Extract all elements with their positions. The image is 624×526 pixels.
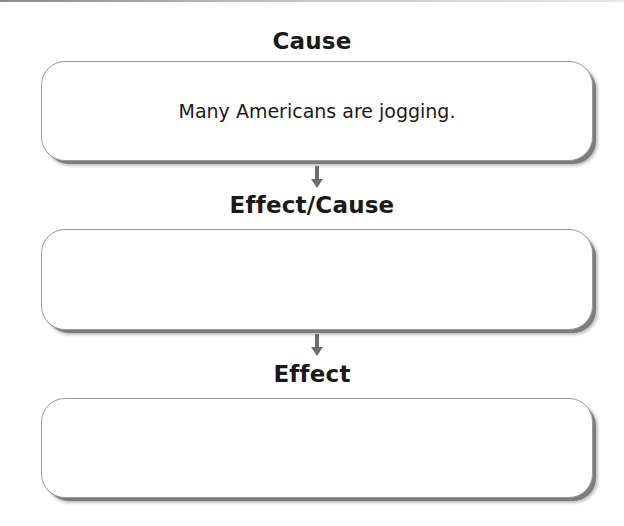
heading-effect: Effect [0, 361, 624, 387]
arrow-down-icon [311, 334, 323, 358]
cause-box-text: Many Americans are jogging. [179, 100, 456, 122]
effect-box[interactable] [41, 398, 593, 498]
top-border-rule [0, 0, 624, 2]
effect-cause-box[interactable] [41, 229, 593, 330]
heading-cause: Cause [0, 28, 624, 54]
arrow-down-icon [311, 166, 323, 190]
cause-box[interactable]: Many Americans are jogging. [41, 61, 593, 161]
heading-effect-cause: Effect/Cause [0, 192, 624, 218]
